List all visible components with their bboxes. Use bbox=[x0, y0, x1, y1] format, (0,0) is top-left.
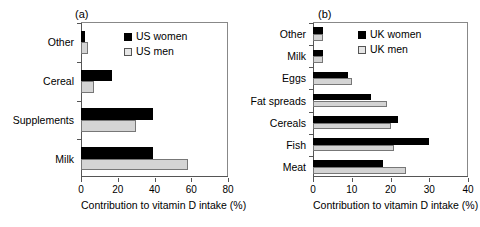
y-axis-tick bbox=[309, 67, 313, 68]
legend-swatch-icon-men bbox=[124, 48, 132, 56]
legend-item-uk-women: UK women bbox=[358, 28, 421, 41]
y-axis-category-label: Other bbox=[280, 28, 306, 40]
x-axis-tick-label: 10 bbox=[346, 184, 357, 195]
legend-label-uk-women: UK women bbox=[370, 28, 421, 41]
x-axis-tick-label: 0 bbox=[78, 184, 84, 195]
panel-a-legend: US women US men bbox=[124, 30, 187, 60]
x-axis-tick bbox=[391, 178, 392, 182]
bar-milk-us-women bbox=[81, 147, 153, 159]
bar-milk-us-men bbox=[81, 159, 188, 171]
legend-label-us-women: US women bbox=[136, 30, 187, 43]
y-axis-category-label: Milk bbox=[287, 50, 306, 62]
bar-eggs-uk-women bbox=[313, 72, 348, 79]
y-axis-category-label: Cereal bbox=[43, 75, 74, 87]
bar-cereals-uk-women bbox=[313, 116, 398, 123]
bar-other-uk-women bbox=[313, 27, 323, 34]
x-axis-line bbox=[313, 176, 468, 177]
y-axis-tick bbox=[309, 134, 313, 135]
y-axis-tick bbox=[309, 23, 313, 24]
bar-fat-spreads-uk-women bbox=[313, 94, 371, 101]
y-axis-category-label: Fish bbox=[286, 139, 306, 151]
bar-milk-uk-men bbox=[313, 56, 323, 63]
x-axis-tick-label: 0 bbox=[310, 184, 316, 195]
x-axis-tick-label: 60 bbox=[186, 184, 197, 195]
legend-label-us-men: US men bbox=[136, 45, 174, 58]
y-axis-tick bbox=[309, 156, 313, 157]
x-axis-tick bbox=[429, 178, 430, 182]
x-axis-tick bbox=[313, 178, 314, 182]
legend-item-us-women: US women bbox=[124, 30, 187, 43]
y-axis-category-label: Fat spreads bbox=[251, 95, 306, 107]
legend-label-uk-men: UK men bbox=[370, 43, 408, 56]
y-axis-tick bbox=[309, 89, 313, 90]
y-axis-tick bbox=[77, 101, 81, 102]
y-axis-tick bbox=[309, 45, 313, 46]
x-axis-tick-label: 40 bbox=[149, 184, 160, 195]
y-axis-tick bbox=[77, 23, 81, 24]
panel-b-legend: UK women UK men bbox=[358, 28, 421, 58]
bar-other-uk-men bbox=[313, 34, 323, 41]
bar-eggs-uk-men bbox=[313, 78, 352, 85]
bar-fat-spreads-uk-men bbox=[313, 101, 387, 108]
y-axis-tick bbox=[77, 139, 81, 140]
bar-other-us-women bbox=[81, 31, 85, 43]
x-axis-tick bbox=[81, 178, 82, 182]
x-axis-tick-label: 20 bbox=[112, 184, 123, 195]
y-axis-category-label: Supplements bbox=[13, 114, 74, 126]
bar-supplements-us-women bbox=[81, 108, 153, 120]
x-axis-tick-label: 30 bbox=[424, 184, 435, 195]
bar-supplements-us-men bbox=[81, 120, 136, 132]
y-axis-tick bbox=[77, 62, 81, 63]
bar-cereals-uk-men bbox=[313, 123, 391, 130]
panel-a-x-axis-title: Contribution to vitamin D intake (%) bbox=[81, 199, 228, 211]
bar-cereal-us-women bbox=[81, 70, 112, 82]
x-axis-tick bbox=[228, 178, 229, 182]
bar-cereal-us-men bbox=[81, 81, 94, 93]
bar-meat-uk-men bbox=[313, 167, 406, 174]
x-axis-tick-label: 20 bbox=[385, 184, 396, 195]
legend-swatch-icon-women bbox=[358, 31, 366, 39]
legend-swatch-icon-men bbox=[358, 46, 366, 54]
y-axis-tick bbox=[309, 112, 313, 113]
panel-b-x-axis-title: Contribution to vitamin D intake (%) bbox=[313, 199, 468, 211]
figure-container: (a) 020406080MilkSupplementsCerealOther … bbox=[0, 0, 480, 227]
x-axis-tick bbox=[468, 178, 469, 182]
bar-other-us-men bbox=[81, 42, 88, 54]
x-axis-tick-label: 80 bbox=[222, 184, 233, 195]
bar-milk-uk-women bbox=[313, 50, 323, 57]
x-axis-tick bbox=[118, 178, 119, 182]
chart-panel-a: (a) 020406080MilkSupplementsCerealOther … bbox=[0, 0, 240, 227]
x-axis-tick bbox=[191, 178, 192, 182]
chart-panel-b: (b) 010203040MeatFishCerealsFat spreadsE… bbox=[240, 0, 480, 227]
y-axis-category-label: Cereals bbox=[270, 117, 306, 129]
bar-meat-uk-women bbox=[313, 160, 383, 167]
x-axis-tick bbox=[352, 178, 353, 182]
legend-item-uk-men: UK men bbox=[358, 43, 421, 56]
panel-a-tag: (a) bbox=[75, 8, 88, 20]
panel-b-tag: (b) bbox=[318, 8, 331, 20]
bar-fish-uk-women bbox=[313, 138, 429, 145]
y-axis-category-label: Eggs bbox=[282, 72, 306, 84]
y-axis-category-label: Other bbox=[48, 36, 74, 48]
y-axis-category-label: Meat bbox=[283, 161, 306, 173]
legend-item-us-men: US men bbox=[124, 45, 187, 58]
x-axis-tick bbox=[155, 178, 156, 182]
bar-fish-uk-men bbox=[313, 145, 394, 152]
x-axis-tick-label: 40 bbox=[462, 184, 473, 195]
x-axis-line bbox=[81, 176, 228, 177]
y-axis-category-label: Milk bbox=[55, 153, 74, 165]
legend-swatch-icon-women bbox=[124, 33, 132, 41]
